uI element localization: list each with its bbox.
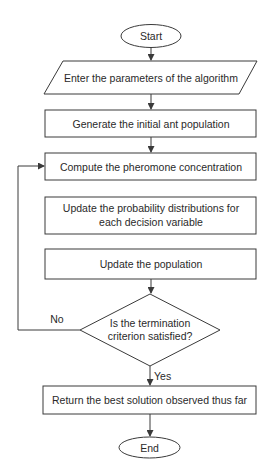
- input-parameters-node: Enter the parameters of the algorithm: [44, 61, 257, 94]
- update-population-label: Update the population: [100, 258, 203, 270]
- end-node: End: [119, 437, 180, 458]
- yes-label: Yes: [154, 370, 171, 382]
- generate-population-label: Generate the initial ant population: [72, 118, 229, 130]
- compute-pheromone-label: Compute the pheromone concentration: [60, 161, 242, 173]
- decision-label-line1: Is the termination: [110, 317, 191, 329]
- return-best-label: Return the best solution observed thus f…: [52, 394, 247, 406]
- flowchart: Start Enter the parameters of the algori…: [0, 0, 278, 474]
- no-label: No: [50, 313, 64, 325]
- start-node: Start: [121, 25, 181, 48]
- return-best-node: Return the best solution observed thus f…: [43, 386, 256, 414]
- termination-decision-node: Is the termination criterion satisfied?: [80, 294, 220, 366]
- update-population-node: Update the population: [45, 249, 256, 279]
- arrow-no-loop-to-compute: [18, 166, 80, 330]
- input-parameters-label: Enter the parameters of the algorithm: [64, 72, 238, 84]
- update-probability-label-line1: Update the probability distributions for: [63, 202, 240, 214]
- update-probability-node: Update the probability distributions for…: [45, 197, 256, 234]
- start-label: Start: [140, 30, 162, 42]
- compute-pheromone-node: Compute the pheromone concentration: [45, 153, 256, 180]
- end-label: End: [140, 442, 159, 454]
- decision-label-line2: criterion satisfied?: [108, 330, 193, 342]
- generate-population-node: Generate the initial ant population: [45, 110, 256, 137]
- update-probability-label-line2: each decision variable: [99, 216, 203, 228]
